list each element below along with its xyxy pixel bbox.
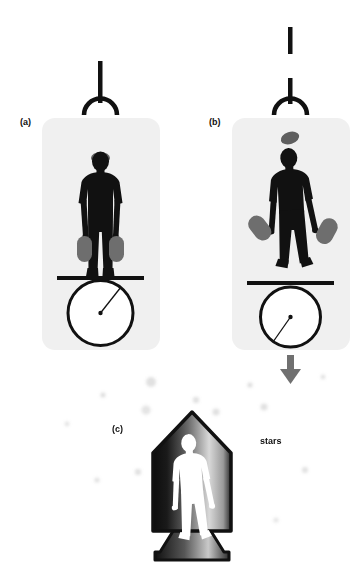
free-fall-arrow-icon [280, 355, 301, 384]
wheel-hub-b [288, 315, 292, 319]
cable-broken-upper-segment-b [288, 27, 293, 54]
figure-canvas [0, 0, 360, 578]
physics-figure: (a) (b) (c) stars [0, 0, 360, 578]
stars-annotation-label: stars [260, 437, 282, 446]
weight-right-a [109, 236, 124, 262]
panel-b-cable-hook-broken [274, 27, 307, 115]
panel-b [232, 27, 350, 384]
balance-board-b [247, 281, 334, 285]
panel-label-b: (b) [209, 118, 221, 127]
panel-label-a: (a) [20, 118, 31, 127]
wheel-hub-a [98, 311, 102, 315]
panel-a-cable-hook [84, 61, 117, 115]
panel-c [153, 412, 231, 560]
panel-a [42, 61, 160, 350]
weight-left-a [77, 236, 92, 262]
panel-label-c: (c) [112, 425, 123, 434]
rocket-base [155, 528, 229, 560]
